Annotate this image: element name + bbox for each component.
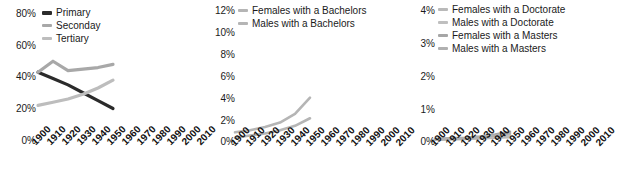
y-axis-tick-label: 2% (205, 116, 235, 126)
chart-panel-advanced-degrees: 4% 3% 2% 1% 0% Females with a Doctorate … (405, 0, 613, 176)
y-axis-tick-label: 1% (405, 105, 435, 115)
x-axis: 1900 1910 1920 1930 1940 1950 1960 1970 … (429, 141, 604, 177)
y-axis-tick-label: 2% (405, 72, 435, 82)
chart-panel-education-levels: 80% 60% 40% 20% 0% Primary Seconday Tert… (0, 0, 205, 176)
y-axis-tick-label: 12% (205, 6, 235, 16)
y-axis-tick-label: 6% (205, 72, 235, 82)
chart-panel-bachelors: 12% 10% 8% 6% 4% 2% 0% Females with a Ba… (205, 0, 405, 176)
plot-area (435, 11, 600, 141)
plot-area (235, 11, 400, 141)
y-axis-tick-label: 10% (205, 28, 235, 38)
line-chart-svg (235, 11, 400, 141)
x-axis: 1900 1910 1920 1930 1940 1950 1960 1970 … (229, 141, 404, 177)
line-chart-svg (435, 11, 600, 141)
y-axis-tick-label: 40% (2, 72, 36, 82)
series-line (38, 61, 113, 72)
y-axis-tick-label: 80% (2, 9, 36, 19)
y-axis-tick-label: 4% (205, 94, 235, 104)
y-axis-tick-label: 4% (405, 6, 435, 16)
line-chart-svg (38, 14, 203, 140)
y-axis-tick-label: 8% (205, 50, 235, 60)
plot-area (38, 14, 203, 140)
y-axis-tick-label: 60% (2, 41, 36, 51)
y-axis-tick-label: 3% (405, 39, 435, 49)
y-axis-tick-label: 20% (2, 104, 36, 114)
x-axis: 1900 1910 1920 1930 1940 1950 1960 1970 … (30, 140, 205, 176)
